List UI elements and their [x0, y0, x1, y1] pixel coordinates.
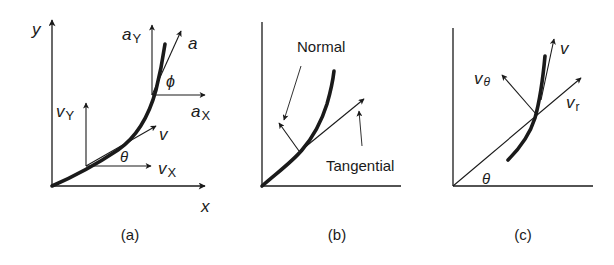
kinematics-figure: y x vY vX v θ aY aX a ϕ (a) Normal Tange…	[0, 0, 614, 265]
v-label: v	[159, 125, 169, 144]
caption-b: (b)	[328, 226, 346, 243]
normal-arrow	[279, 123, 299, 151]
theta-label: θ	[120, 148, 128, 165]
v-y-label: vY	[56, 102, 75, 123]
panel-c: v vθ vr θ (c)	[453, 28, 593, 243]
y-axis-label: y	[31, 20, 42, 39]
v-theta-label: vθ	[474, 69, 491, 89]
trajectory-curve	[262, 71, 334, 186]
normal-pointer	[284, 66, 301, 120]
tangential-pointer	[359, 111, 362, 146]
tangential-arrow	[304, 99, 364, 148]
phi-label: ϕ	[166, 73, 175, 90]
a-x-label: aX	[191, 102, 210, 123]
v-x-label: vX	[158, 159, 177, 180]
tangential-label: Tangential	[326, 157, 394, 174]
panel-a: y x vY vX v θ aY aX a ϕ (a)	[31, 20, 210, 243]
a-label: a	[188, 34, 197, 53]
a-y-label: aY	[122, 25, 141, 46]
caption-a: (a)	[121, 226, 139, 243]
radial-line-v-r-arrow	[453, 78, 581, 186]
caption-c: (c)	[514, 226, 532, 243]
v-r-label: vr	[566, 93, 580, 114]
normal-label: Normal	[297, 38, 345, 55]
v-label: v	[560, 39, 570, 58]
x-axis-label: x	[200, 197, 210, 216]
trajectory-curve	[508, 56, 545, 160]
panel-b: Normal Tangential (b)	[262, 22, 401, 243]
theta-label: θ	[482, 170, 490, 187]
v-theta-arrow	[502, 75, 536, 114]
